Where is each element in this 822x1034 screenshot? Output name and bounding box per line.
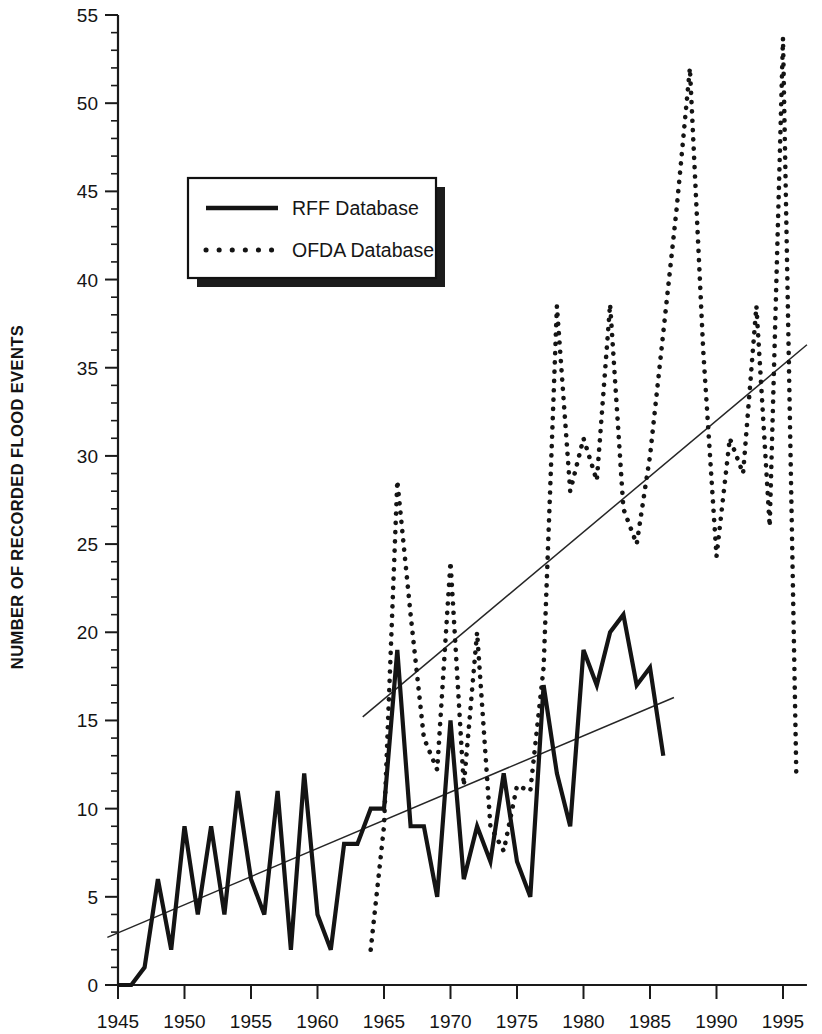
y-tick-label: 50 <box>77 93 98 114</box>
chart-legend: RFF DatabaseOFDA Database <box>188 178 445 287</box>
x-tick-label: 1975 <box>496 1011 538 1032</box>
x-tick-label: 1980 <box>562 1011 604 1032</box>
x-tick-label: 1970 <box>429 1011 471 1032</box>
x-tick-label: 1995 <box>762 1011 804 1032</box>
x-axis: 1945195019551960196519701975198019851990… <box>97 985 807 1032</box>
trend-line <box>363 345 807 717</box>
flood-events-chart: 0510152025303540455055 19451950195519601… <box>0 0 822 1034</box>
chart-canvas: 0510152025303540455055 19451950195519601… <box>0 0 822 1034</box>
x-tick-label: 1950 <box>163 1011 205 1032</box>
y-tick-label: 5 <box>87 887 98 908</box>
y-axis: 0510152025303540455055 <box>77 5 118 996</box>
y-tick-label: 25 <box>77 534 98 555</box>
series-line-ofda <box>371 38 797 950</box>
y-tick-label: 10 <box>77 799 98 820</box>
y-tick-label: 35 <box>77 358 98 379</box>
legend-label: RFF Database <box>292 197 419 219</box>
y-tick-label: 20 <box>77 622 98 643</box>
y-tick-label: 15 <box>77 710 98 731</box>
legend-label: OFDA Database <box>292 239 434 261</box>
x-tick-label: 1945 <box>97 1011 139 1032</box>
y-tick-label: 45 <box>77 181 98 202</box>
y-tick-label: 0 <box>87 975 98 996</box>
legend-frame <box>188 178 436 278</box>
x-tick-label: 1985 <box>629 1011 671 1032</box>
y-tick-label: 55 <box>77 5 98 26</box>
y-tick-label: 30 <box>77 446 98 467</box>
x-tick-label: 1955 <box>230 1011 272 1032</box>
y-tick-label: 40 <box>77 270 98 291</box>
x-tick-label: 1990 <box>695 1011 737 1032</box>
x-tick-label: 1960 <box>296 1011 338 1032</box>
x-tick-label: 1965 <box>363 1011 405 1032</box>
